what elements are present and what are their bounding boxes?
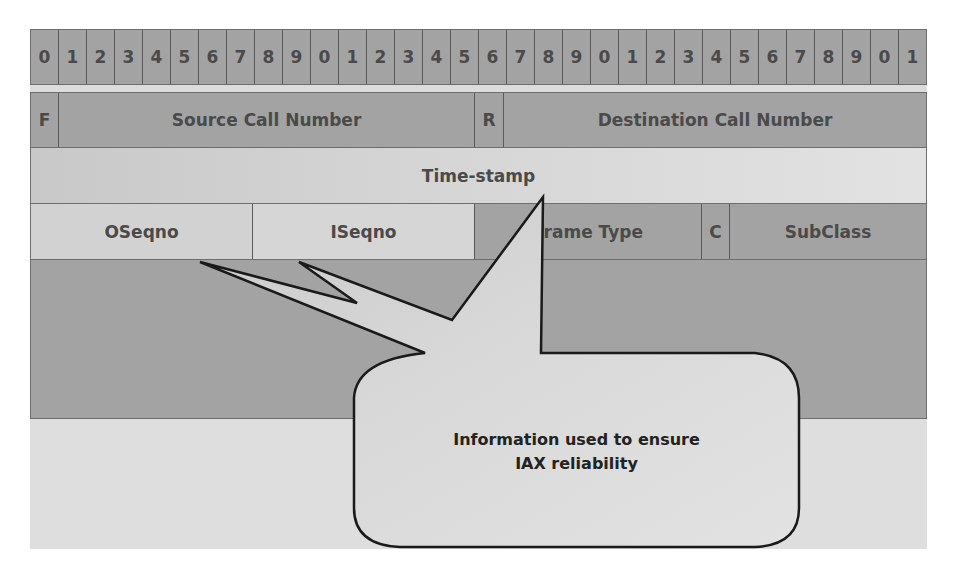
callout-line-1: Information used to ensure [354, 428, 799, 452]
callout-bubble [0, 0, 954, 579]
callout-shape [200, 197, 799, 547]
callout-text: Information used to ensure IAX reliabili… [354, 428, 799, 476]
callout-line-2: IAX reliability [354, 452, 799, 476]
